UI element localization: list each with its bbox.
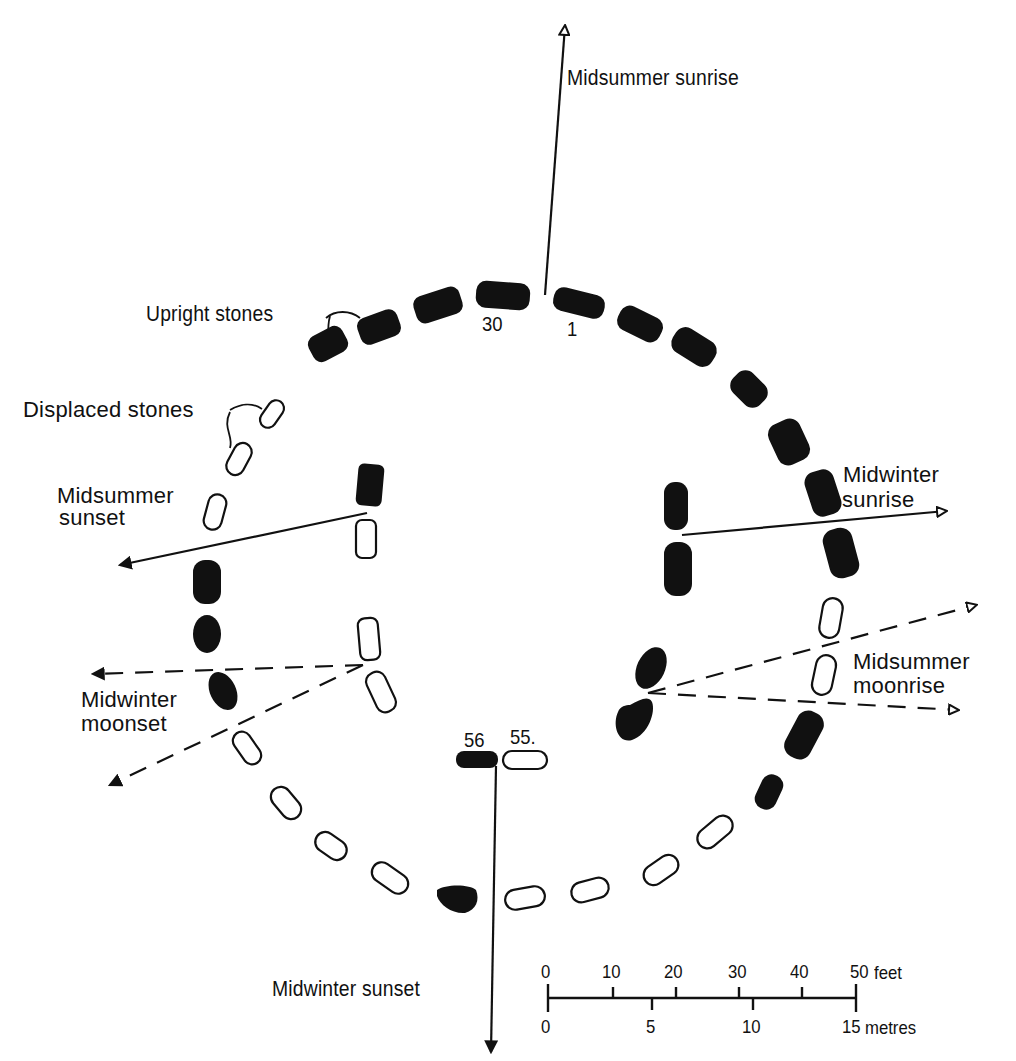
stone-d-sw-2 xyxy=(267,783,305,823)
midsummer-sunset-line xyxy=(120,513,367,565)
label-midsummer-moonrise-line2: moonrise xyxy=(853,674,945,698)
upright-leader-a xyxy=(326,312,360,318)
label-displaced-stones: Displaced stones xyxy=(23,398,194,422)
label-upright-stones: Upright stones xyxy=(146,302,273,326)
stone-south xyxy=(437,886,478,914)
midwinter-moonset-line-a xyxy=(93,665,363,674)
scale-metres-unit: metres xyxy=(865,1018,916,1038)
stone-d-e-2 xyxy=(810,653,838,696)
stone-d-w-1 xyxy=(202,492,229,531)
displaced-leader-a xyxy=(230,405,262,410)
stone-1 xyxy=(551,285,607,321)
stone-26 xyxy=(305,323,352,366)
scale-feet-10: 10 xyxy=(602,962,621,982)
stone-d-sw-3 xyxy=(311,828,350,864)
stone-inner-w-b xyxy=(363,669,399,716)
stone-w-3 xyxy=(203,667,243,714)
displaced-stones xyxy=(202,397,845,911)
stone-4 xyxy=(726,366,773,413)
label-midwinter-moonset-line1: Midwinter xyxy=(81,688,177,712)
stone-d-se-2 xyxy=(693,811,736,852)
stone-2 xyxy=(614,302,667,346)
scale-metres-15: 15 xyxy=(842,1017,861,1037)
stone-28 xyxy=(411,284,465,325)
stone-inner-ne-a xyxy=(664,482,688,530)
stone-d-e-1 xyxy=(818,597,845,640)
label-midsummer-sunrise: Midsummer sunrise xyxy=(567,66,739,90)
stone-56 xyxy=(456,751,498,768)
scale-metres-0: 0 xyxy=(541,1017,550,1037)
scale-feet-40: 40 xyxy=(790,962,809,982)
scale-feet-0: 0 xyxy=(541,962,550,982)
stone-d-nw-1 xyxy=(257,397,287,431)
stone-w-1 xyxy=(193,560,221,604)
midwinter-sunrise-line xyxy=(682,511,946,535)
stone-7 xyxy=(820,525,862,581)
displaced-leader-b xyxy=(227,412,231,448)
label-midwinter-moonset-line2: moonset xyxy=(81,712,167,736)
stone-5 xyxy=(764,415,813,469)
label-midsummer-moonrise-line1: Midsummer xyxy=(853,650,970,674)
label-midwinter-sunrise-line1: Midwinter xyxy=(843,463,939,487)
stone-number-1: 1 xyxy=(567,318,577,340)
scale-metres-10: 10 xyxy=(742,1017,761,1037)
stone-3 xyxy=(667,323,721,371)
scale-feet-unit: feet xyxy=(874,963,902,983)
stone-30 xyxy=(475,280,531,311)
stone-9 xyxy=(751,771,786,813)
stone-8 xyxy=(780,706,828,763)
stone-d-sw-1 xyxy=(229,728,264,768)
stone-inner-w-a xyxy=(357,617,381,661)
stone-d-sw-4 xyxy=(368,858,412,897)
stone-inner-e-b xyxy=(616,699,653,741)
stone-circle-diagram xyxy=(0,0,1016,1061)
stone-w-2 xyxy=(193,615,221,653)
scale-feet-30: 30 xyxy=(728,962,747,982)
scale-metres-5: 5 xyxy=(646,1017,655,1037)
stone-number-30: 30 xyxy=(482,313,503,335)
label-midsummer-sunset-line2: sunset xyxy=(59,506,125,530)
midwinter-sunset-line xyxy=(491,766,496,1052)
scale-feet-50: 50 xyxy=(850,962,869,982)
midsummer-sunrise-line xyxy=(545,26,565,295)
stone-27 xyxy=(354,307,403,348)
stone-6 xyxy=(802,466,845,519)
stone-inner-nw xyxy=(355,463,385,507)
stone-d-se-1 xyxy=(640,851,683,889)
label-midwinter-sunrise-line2: sunrise xyxy=(842,488,914,512)
stone-number-55: 55. xyxy=(510,726,536,748)
stone-d-s-2 xyxy=(569,875,611,904)
stone-inner-nw-b xyxy=(356,520,376,558)
stone-inner-e-a xyxy=(629,642,673,694)
stone-d-nw-2 xyxy=(223,440,255,478)
scale-feet-20: 20 xyxy=(664,962,683,982)
scale-bar xyxy=(548,984,856,1012)
label-midwinter-sunset: Midwinter sunset xyxy=(272,977,420,1001)
stone-inner-ne-b xyxy=(664,542,692,596)
stone-number-56: 56 xyxy=(464,729,485,751)
stone-d-s-1 xyxy=(504,885,547,912)
stone-55 xyxy=(503,751,547,769)
